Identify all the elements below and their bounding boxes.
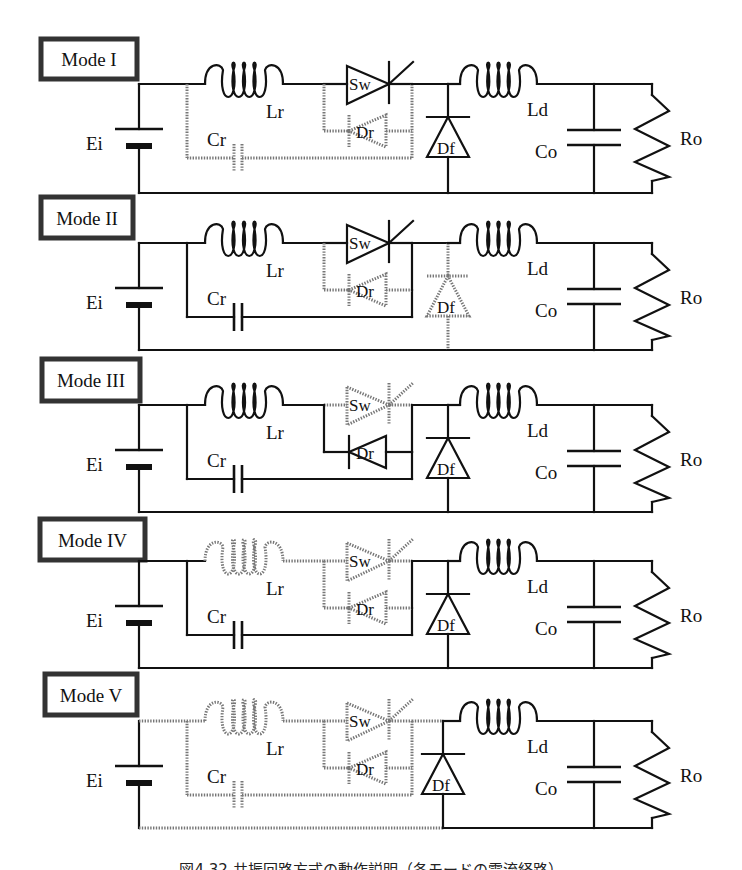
diode-df: Df (427, 243, 469, 350)
mode-label: Mode I (41, 39, 137, 79)
label-co: Co (535, 141, 557, 162)
label-dr: Dr (356, 760, 374, 779)
mode-panel-3: Mode IIIEiLrCrSwDrDfLdCoRo (42, 359, 702, 512)
label-lr: Lr (266, 101, 285, 122)
inductor-lr: Lr (205, 700, 324, 760)
resistor-ro: Ro (635, 84, 702, 193)
capacitor-cr: Cr (187, 243, 412, 331)
label-cr: Cr (207, 606, 227, 627)
diode-df: Df (422, 721, 464, 828)
capacitor-cr: Cr (187, 84, 412, 172)
mode-label-text: Mode III (57, 370, 125, 391)
label-ld: Ld (527, 736, 549, 757)
mode-panel-5: Mode VEiLrCrSwDrDfLdCoRo (45, 674, 702, 828)
source-ei: Ei (86, 561, 163, 668)
inductor-lr: Lr (205, 384, 324, 444)
mode-panel-2: Mode IIEiLrCrSwDrDfLdCoRo (41, 197, 702, 350)
inductor-ld: Ld (448, 63, 652, 121)
label-ei: Ei (86, 454, 103, 475)
label-cr: Cr (207, 766, 227, 787)
label-co: Co (535, 618, 557, 639)
label-dr: Dr (356, 444, 374, 463)
mode-panel-1: Mode IEiLrCrSwDrDfLdCoRo (41, 39, 702, 193)
capacitor-cr: Cr (187, 561, 412, 649)
label-sw: Sw (349, 234, 371, 253)
inductor-ld: Ld (448, 222, 652, 280)
switch-sw: Sw (324, 539, 413, 581)
diode-df: Df (427, 84, 469, 193)
label-lr: Lr (266, 422, 285, 443)
switch-sw: Sw (324, 221, 413, 263)
label-ld: Ld (527, 99, 549, 120)
label-df: Df (432, 776, 450, 795)
inductor-ld: Ld (448, 384, 652, 442)
source-ei: Ei (86, 405, 163, 512)
diode-df: Df (427, 561, 469, 668)
label-df: Df (437, 616, 455, 635)
label-ld: Ld (527, 258, 549, 279)
mode-label: Mode II (41, 197, 133, 238)
label-lr: Lr (266, 738, 285, 759)
label-ld: Ld (527, 420, 549, 441)
inductor-lr: Lr (205, 222, 324, 282)
mode-label: Mode V (45, 674, 137, 715)
label-df: Df (437, 460, 455, 479)
inductor-lr: Lr (205, 540, 324, 600)
switch-sw: Sw (324, 62, 413, 104)
capacitor-cr: Cr (187, 405, 412, 493)
mode-label: Mode III (42, 359, 140, 401)
label-cr: Cr (207, 288, 227, 309)
capacitor-cr: Cr (187, 721, 412, 809)
label-ro: Ro (680, 449, 702, 470)
circuit-mode-diagram: Mode IEiLrCrSwDrDfLdCoRoMode IIEiLrCrSwD… (0, 0, 742, 870)
mode-label: Mode IV (40, 519, 145, 560)
label-df: Df (437, 298, 455, 317)
diode-df: Df (427, 405, 469, 512)
inductor-ld: Ld (443, 700, 652, 758)
resistor-ro: Ro (635, 721, 702, 828)
label-co: Co (535, 778, 557, 799)
label-ei: Ei (86, 610, 103, 631)
label-ld: Ld (527, 576, 549, 597)
label-ei: Ei (86, 292, 103, 313)
mode-label-text: Mode II (56, 208, 118, 229)
mode-panel-4: Mode IVEiLrCrSwDrDfLdCoRo (40, 519, 702, 668)
mode-label-text: Mode IV (58, 530, 127, 551)
switch-sw: Sw (324, 699, 413, 741)
label-lr: Lr (266, 578, 285, 599)
label-ro: Ro (680, 605, 702, 626)
source-ei: Ei (86, 84, 163, 193)
resistor-ro: Ro (635, 405, 702, 512)
resistor-ro: Ro (635, 243, 702, 350)
label-co: Co (535, 300, 557, 321)
source-ei: Ei (86, 721, 163, 828)
label-ro: Ro (680, 765, 702, 786)
label-ro: Ro (680, 287, 702, 308)
label-co: Co (535, 462, 557, 483)
mode-label-text: Mode I (61, 49, 116, 70)
resistor-ro: Ro (635, 561, 702, 668)
label-sw: Sw (349, 396, 371, 415)
label-sw: Sw (349, 712, 371, 731)
label-ro: Ro (680, 128, 702, 149)
switch-sw: Sw (324, 383, 413, 425)
figure-caption: 図4.32 共振回路方式の動作説明（各モードの電流経路） (0, 859, 742, 870)
label-dr: Dr (356, 123, 374, 142)
label-dr: Dr (356, 282, 374, 301)
mode-label-text: Mode V (60, 685, 123, 706)
label-dr: Dr (356, 600, 374, 619)
label-ei: Ei (86, 133, 103, 154)
label-cr: Cr (207, 450, 227, 471)
label-sw: Sw (349, 75, 371, 94)
inductor-ld: Ld (448, 540, 652, 598)
inductor-lr: Lr (205, 63, 324, 123)
label-df: Df (437, 139, 455, 158)
label-cr: Cr (207, 129, 227, 150)
label-lr: Lr (266, 260, 285, 281)
label-ei: Ei (86, 770, 103, 791)
source-ei: Ei (86, 243, 163, 350)
label-sw: Sw (349, 552, 371, 571)
